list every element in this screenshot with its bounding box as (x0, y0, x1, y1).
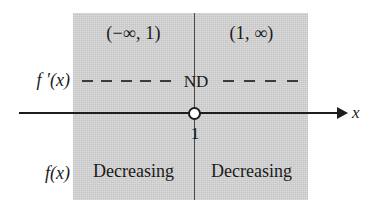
sign-chart-figure: (−∞, 1) (1, ∞) f ′(x) ND x 1 f(x) Decrea… (0, 0, 371, 209)
behavior-right: Decreasing (195, 161, 308, 182)
not-defined-marker: ND (180, 73, 213, 90)
axis-variable-label: x (352, 103, 360, 123)
derivative-sign-row: ND (73, 71, 308, 91)
dash-mark (121, 80, 132, 82)
dash-mark (140, 80, 151, 82)
dash-group-left (73, 71, 180, 91)
axis-arrowhead-icon (337, 107, 348, 119)
dash-mark (160, 80, 171, 82)
interval-header-right: (1, ∞) (195, 23, 308, 44)
dash-mark (265, 80, 276, 82)
critical-value-label: 1 (175, 124, 215, 144)
interval-header-left: (−∞, 1) (73, 23, 194, 44)
row-label-function: f(x) (26, 163, 70, 184)
open-circle-marker-icon (188, 107, 201, 120)
dash-mark (287, 80, 298, 82)
dash-mark (244, 80, 255, 82)
dash-mark (101, 80, 112, 82)
behavior-left: Decreasing (73, 161, 194, 182)
row-label-derivative: f ′(x) (26, 70, 70, 91)
number-line-axis (19, 112, 339, 114)
dash-group-right (212, 71, 308, 91)
dash-mark (82, 80, 93, 82)
dash-mark (223, 80, 234, 82)
